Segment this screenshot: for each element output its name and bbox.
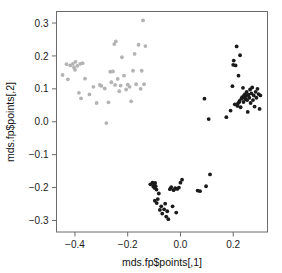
data-point <box>256 87 260 91</box>
data-point <box>258 94 262 98</box>
data-point <box>83 77 87 81</box>
data-point <box>95 101 99 105</box>
y-tick-label: −0.1 <box>29 149 49 160</box>
data-point <box>157 192 161 196</box>
data-point <box>103 87 107 91</box>
data-point <box>255 96 259 100</box>
data-point <box>117 89 121 93</box>
data-point <box>208 173 212 177</box>
y-axis-title: mds.fp$points[,2] <box>4 82 16 162</box>
data-point <box>133 52 137 56</box>
data-point <box>165 209 169 213</box>
data-point <box>139 87 143 91</box>
data-point <box>129 99 133 103</box>
data-point <box>142 82 146 86</box>
data-point <box>107 100 111 104</box>
data-point <box>92 85 96 89</box>
data-point <box>251 98 255 102</box>
x-tick-label: 0.2 <box>226 239 240 250</box>
data-point <box>234 64 238 68</box>
data-point <box>229 109 233 113</box>
data-point <box>66 77 70 81</box>
y-tick-label: −0.2 <box>29 182 49 193</box>
data-point <box>155 201 159 205</box>
data-point <box>203 97 207 101</box>
data-point <box>81 61 85 65</box>
data-point <box>131 69 135 73</box>
data-point <box>88 93 92 97</box>
data-point <box>247 96 251 100</box>
data-point <box>162 207 166 211</box>
data-point <box>155 188 159 192</box>
data-point <box>109 80 113 84</box>
scatter-plot-figure: −0.4−0.20.00.2−0.3−0.2−0.10.00.10.20.3 m… <box>0 0 282 273</box>
data-point <box>159 204 163 208</box>
data-point <box>166 217 170 221</box>
data-point <box>258 107 262 111</box>
data-point <box>171 204 175 208</box>
data-point <box>104 121 108 125</box>
data-point <box>238 53 242 57</box>
data-point <box>119 84 123 88</box>
data-point <box>163 202 167 206</box>
data-point <box>122 74 126 78</box>
x-tick-label: −0.2 <box>118 239 138 250</box>
x-axis-title: mds.fp$points[,1] <box>122 256 202 268</box>
data-point <box>113 83 117 87</box>
data-point <box>140 69 144 73</box>
data-point <box>235 44 239 48</box>
data-point <box>169 185 173 189</box>
data-point <box>124 88 128 92</box>
data-point <box>73 68 77 72</box>
data-point <box>174 211 178 215</box>
data-point <box>232 59 236 63</box>
data-point <box>246 110 250 114</box>
y-tick-label: 0.1 <box>35 83 49 94</box>
data-point <box>77 91 81 95</box>
data-point <box>241 86 245 90</box>
data-point <box>204 184 208 188</box>
data-point <box>79 96 83 100</box>
data-point <box>158 208 162 212</box>
data-point <box>137 43 141 47</box>
data-point <box>61 73 65 77</box>
data-point <box>111 70 115 74</box>
data-point <box>153 181 157 185</box>
data-point <box>253 105 257 109</box>
x-tick-label: −0.4 <box>65 239 85 250</box>
data-point <box>154 184 158 188</box>
data-point <box>116 77 120 81</box>
data-point <box>177 186 181 190</box>
data-point <box>128 85 132 89</box>
data-point <box>143 44 147 48</box>
y-tick-label: 0.2 <box>35 51 49 62</box>
y-tick-label: −0.3 <box>29 215 49 226</box>
data-point <box>249 101 253 105</box>
data-point <box>198 189 202 193</box>
data-point <box>156 197 160 201</box>
data-point <box>141 18 145 22</box>
data-point <box>231 84 235 88</box>
data-point <box>120 55 124 59</box>
data-point <box>65 62 69 66</box>
y-tick-label: 0.0 <box>35 116 49 127</box>
data-point <box>114 40 118 44</box>
data-point <box>239 105 243 109</box>
data-point <box>74 60 78 64</box>
data-point <box>207 117 211 121</box>
y-tick-label: 0.3 <box>35 18 49 29</box>
data-point <box>134 82 138 86</box>
x-tick-label: 0.0 <box>174 239 188 250</box>
scatter-plot-canvas: −0.4−0.20.00.2−0.3−0.2−0.10.00.10.20.3 m… <box>0 0 282 273</box>
data-point <box>180 178 184 182</box>
data-point <box>224 115 228 119</box>
data-point <box>237 74 241 78</box>
data-point <box>99 84 103 88</box>
data-point <box>250 86 254 90</box>
data-point <box>160 212 164 216</box>
